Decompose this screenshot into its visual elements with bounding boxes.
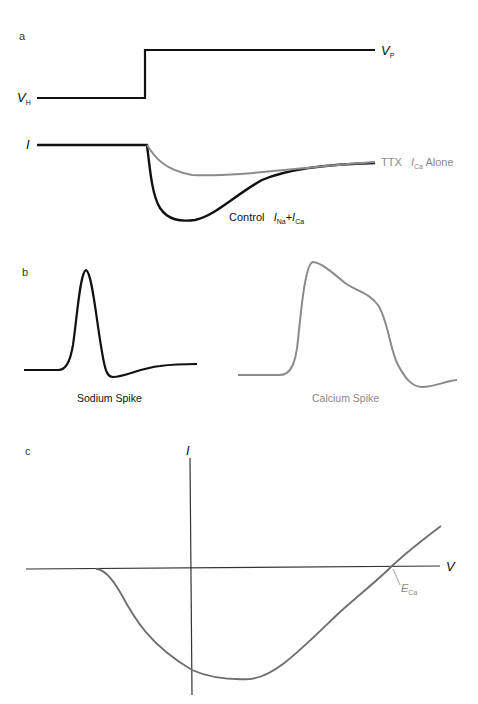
sodium-spike-trace <box>24 270 197 377</box>
ica-subscript: Ca <box>295 218 304 225</box>
iv-y-axis <box>190 458 192 695</box>
panel-a-letter: a <box>19 31 25 42</box>
ina-subscript: Na <box>277 218 286 225</box>
calcium-spike-label: Calcium Spike <box>312 393 379 404</box>
control-label: Control INa+ICa <box>229 212 304 223</box>
eca-label: ECa <box>401 583 417 594</box>
ttx-text: TTX <box>381 156 402 168</box>
iv-x-axis-label: V <box>446 560 455 573</box>
calcium-spike-trace <box>238 262 457 387</box>
ttx-alone-text: Alone <box>425 156 453 168</box>
ttx-current-subscript: Ca <box>414 163 423 170</box>
iv-y-axis-label: I <box>186 444 190 457</box>
iv-curve <box>96 526 441 679</box>
vp-symbol: V <box>381 43 390 58</box>
control-text: Control <box>229 211 264 223</box>
control-current-trace <box>37 145 375 221</box>
ttx-label: TTX ICa Alone <box>381 157 454 168</box>
eca-subscript: Ca <box>408 589 417 596</box>
vh-symbol: V <box>17 90 26 105</box>
sodium-spike-label: Sodium Spike <box>77 393 142 404</box>
eca-leader-line <box>393 569 400 585</box>
vp-subscript: P <box>390 52 395 59</box>
figure-canvas <box>0 0 478 704</box>
iv-x-axis <box>26 566 440 569</box>
panel-c-letter: c <box>25 446 31 457</box>
figure: a b c VH VP I TTX ICa Alone Control INa+… <box>0 0 478 704</box>
vh-subscript: H <box>26 99 31 106</box>
vp-label: VP <box>381 44 394 57</box>
ttx-current-trace <box>147 145 375 175</box>
panel-b-letter: b <box>22 267 28 278</box>
vh-label: VH <box>17 91 31 104</box>
voltage-step-trace <box>37 50 375 98</box>
current-axis-label: I <box>26 138 30 151</box>
